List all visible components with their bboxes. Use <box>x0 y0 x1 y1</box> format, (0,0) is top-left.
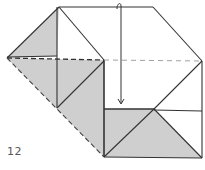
origami-diagram <box>0 0 205 170</box>
step-number: 12 <box>7 145 22 158</box>
bottom-square <box>104 109 202 158</box>
valley-fold-line-right <box>104 60 202 61</box>
fold-down-arrow-icon <box>117 4 124 104</box>
